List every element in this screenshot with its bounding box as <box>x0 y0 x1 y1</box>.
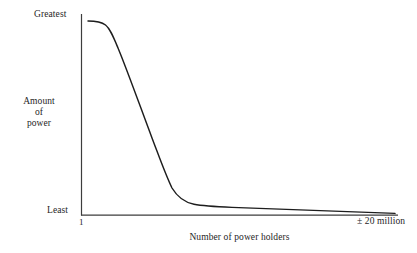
y-axis-min-label: Least <box>47 205 68 216</box>
y-axis-title: Amount of power <box>6 96 72 130</box>
power-curve <box>88 21 395 213</box>
x-axis-end-tick-label: ± 20 million <box>357 216 405 227</box>
x-axis-start-tick-label: 1 <box>79 217 84 228</box>
y-axis-title-line-1: Amount <box>6 96 72 107</box>
y-axis-max-label: Greatest <box>34 9 66 20</box>
power-distribution-chart: Greatest Least Amount of power 1 ± 20 mi… <box>0 0 417 253</box>
x-axis-title: Number of power holders <box>81 232 398 243</box>
y-axis-title-line-2: of <box>6 107 72 118</box>
y-axis-title-line-3: power <box>6 118 72 129</box>
